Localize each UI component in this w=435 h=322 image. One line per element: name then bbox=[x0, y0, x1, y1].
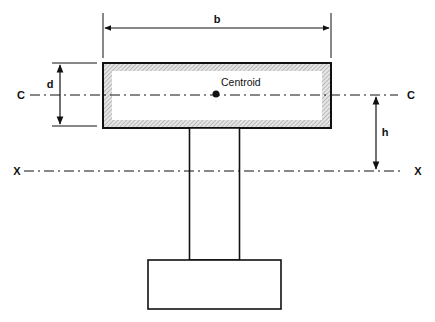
base bbox=[148, 260, 281, 309]
label-h: h bbox=[382, 126, 389, 138]
web bbox=[190, 128, 240, 260]
label-x-left: X bbox=[13, 165, 21, 177]
label-b: b bbox=[214, 13, 221, 25]
t-section-diagram: b d C C Centroid X X h bbox=[0, 0, 435, 322]
centroid-dot bbox=[213, 91, 220, 98]
label-x-right: X bbox=[414, 165, 422, 177]
label-d: d bbox=[47, 78, 54, 90]
label-c-right: C bbox=[407, 89, 415, 101]
label-c-left: C bbox=[17, 89, 25, 101]
label-centroid: Centroid bbox=[221, 76, 261, 88]
